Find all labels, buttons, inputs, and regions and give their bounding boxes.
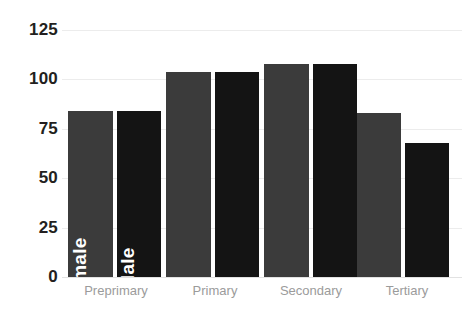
y-tick-label-125: 125	[6, 21, 58, 38]
y-axis: 125 100 75 50 25 0	[0, 0, 58, 314]
legend-label-male: Male	[117, 247, 139, 277]
bar-primary-male	[215, 72, 259, 277]
bar-tertiary-female	[357, 113, 401, 277]
bar-primary-female	[166, 72, 211, 277]
legend-label-female: Female	[69, 237, 91, 277]
y-tick-label-75: 75	[6, 120, 58, 137]
bar-chart: 125 100 75 50 25 0 Female Male	[0, 0, 469, 314]
y-tick-label-25: 25	[6, 219, 58, 236]
y-tick-label-50: 50	[6, 169, 58, 186]
bar-preprimary-male: Male	[117, 111, 161, 277]
x-tick-label-tertiary: Tertiary	[347, 283, 467, 299]
bar-secondary-male	[313, 64, 357, 277]
bars-layer: Female Male	[62, 0, 462, 314]
y-tick-label-100: 100	[6, 70, 58, 87]
bar-tertiary-male	[405, 143, 449, 277]
bar-preprimary-female: Female	[68, 111, 113, 277]
y-tick-label-0: 0	[6, 268, 58, 285]
bar-secondary-female	[264, 64, 309, 277]
x-axis: Preprimary Primary Secondary Tertiary	[62, 283, 462, 307]
